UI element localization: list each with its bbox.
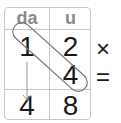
multiply-sign: × [96,37,110,61]
diagonal-capsule-icon [9,19,91,95]
down-arrow-icon [23,62,31,100]
equals-sign: = [96,65,110,89]
